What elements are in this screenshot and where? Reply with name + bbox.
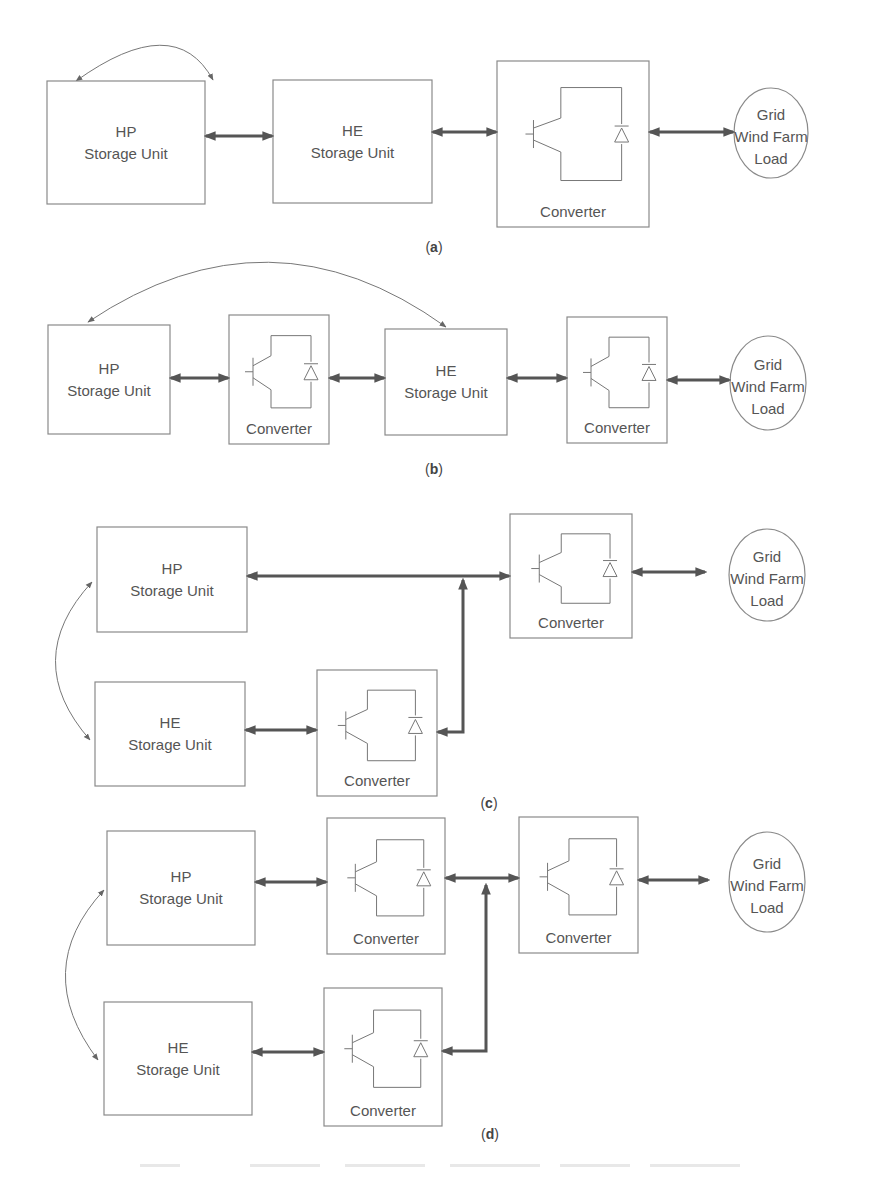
load-label: Grid (757, 106, 785, 123)
storage-label: Storage Unit (128, 736, 212, 753)
storage-label: HE (342, 122, 363, 139)
load-label: Grid (753, 855, 781, 872)
converter-label: Converter (353, 930, 419, 947)
he-storage-unit-block: HEStorage Unit (385, 329, 507, 435)
hp-storage-unit-block: HPStorage Unit (97, 527, 247, 632)
converter-block: Converter (510, 514, 632, 638)
load-label: Wind Farm (730, 570, 803, 587)
load-label: Load (751, 400, 784, 417)
converter-block: Converter (327, 818, 445, 954)
diagram-canvas: HPStorage UnitHEStorage UnitConverterGri… (0, 0, 869, 1177)
grid-load-node: GridWind FarmLoad (729, 529, 805, 621)
storage-label: HP (171, 868, 192, 885)
converter-label: Converter (540, 203, 606, 220)
load-label: Grid (753, 548, 781, 565)
panel-caption: (b) (425, 461, 443, 477)
load-label: Wind Farm (730, 877, 803, 894)
converter-label: Converter (246, 420, 312, 437)
converter-block: Converter (497, 61, 649, 227)
converter-label: Converter (350, 1102, 416, 1119)
grid-load-node: GridWind FarmLoad (730, 336, 806, 430)
diagram-panels: HPStorage UnitHEStorage UnitConverterGri… (47, 45, 808, 1142)
storage-label: HP (99, 360, 120, 377)
storage-label: HE (436, 362, 457, 379)
converter-label: Converter (584, 419, 650, 436)
converter-block: Converter (317, 670, 437, 796)
cropped-caption-line (0, 1160, 869, 1174)
junction-arrow (443, 885, 486, 1051)
converter-label: Converter (546, 929, 612, 946)
storage-label: HP (116, 123, 137, 140)
load-label: Load (750, 592, 783, 609)
storage-label: Storage Unit (311, 144, 395, 161)
load-label: Load (754, 150, 787, 167)
he-storage-unit-block: HEStorage Unit (95, 682, 245, 786)
panel-caption: (a) (425, 239, 442, 255)
load-label: Wind Farm (731, 378, 804, 395)
converter-label: Converter (344, 772, 410, 789)
he-storage-unit-block: HEStorage Unit (104, 1002, 252, 1115)
bidirectional-curve-arrow (76, 45, 213, 81)
storage-label: HE (168, 1039, 189, 1056)
panel-caption: (d) (481, 1126, 499, 1142)
storage-label: Storage Unit (130, 582, 214, 599)
converter-block: Converter (519, 817, 638, 953)
storage-label: Storage Unit (84, 145, 168, 162)
panel-d: HPStorage UnitConverterConverterGridWind… (65, 817, 805, 1142)
hp-storage-unit-block: HPStorage Unit (48, 325, 170, 434)
hp-storage-unit-block: HPStorage Unit (107, 831, 255, 945)
he-storage-unit-block: HEStorage Unit (273, 80, 432, 203)
grid-load-node: GridWind FarmLoad (734, 88, 808, 178)
storage-label: Storage Unit (404, 384, 488, 401)
load-label: Load (750, 899, 783, 916)
storage-label: HP (162, 560, 183, 577)
converter-block: Converter (567, 317, 667, 443)
storage-label: HE (160, 714, 181, 731)
panel-c: HPStorage UnitConverterGridWind FarmLoad… (55, 514, 805, 811)
grid-load-node: GridWind FarmLoad (729, 832, 805, 932)
panel-a: HPStorage UnitHEStorage UnitConverterGri… (47, 45, 808, 255)
storage-label: Storage Unit (136, 1061, 220, 1078)
storage-label: Storage Unit (67, 382, 151, 399)
panel-b: HPStorage UnitConverterHEStorage UnitCon… (48, 262, 806, 477)
hp-storage-unit-block: HPStorage Unit (47, 81, 205, 204)
load-label: Wind Farm (734, 128, 807, 145)
storage-label: Storage Unit (139, 890, 223, 907)
panel-caption: (c) (480, 795, 497, 811)
load-label: Grid (754, 356, 782, 373)
converter-block: Converter (229, 315, 329, 444)
bidirectional-curve-arrow (65, 890, 104, 1060)
bidirectional-curve-arrow (55, 582, 92, 740)
converter-label: Converter (538, 614, 604, 631)
junction-arrow (438, 580, 463, 732)
converter-block: Converter (324, 988, 442, 1126)
